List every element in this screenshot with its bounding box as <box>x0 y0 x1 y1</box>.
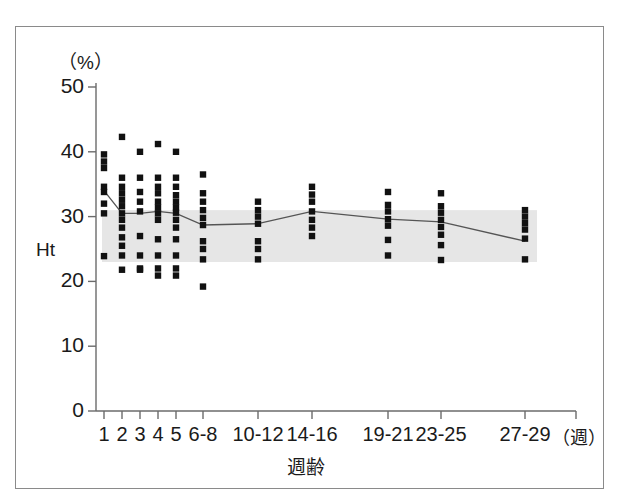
scatter-point <box>173 236 179 242</box>
scatter-point <box>438 203 444 209</box>
scatter-point <box>119 134 125 140</box>
scatter-point <box>255 221 261 227</box>
scatter-point <box>309 198 315 204</box>
scatter-point <box>309 224 315 230</box>
scatter-point <box>200 190 206 196</box>
scatter-point <box>119 234 125 240</box>
y-tick-label: 0 <box>30 398 84 422</box>
scatter-point <box>173 210 179 216</box>
scatter-point <box>200 198 206 204</box>
scatter-point <box>173 198 179 204</box>
scatter-point <box>385 222 391 228</box>
reference-band <box>102 210 537 262</box>
scatter-point <box>101 151 107 157</box>
x-tick-label: 23-25 <box>396 423 486 446</box>
scatter-point <box>385 237 391 243</box>
scatter-point <box>255 246 261 252</box>
scatter-point <box>155 198 161 204</box>
scatter-point <box>137 252 143 258</box>
x-tick-label: 27-29 <box>480 423 570 446</box>
scatter-point <box>200 207 206 213</box>
scatter-point <box>309 184 315 190</box>
scatter-point <box>522 207 528 213</box>
scatter-point <box>155 265 161 271</box>
y-axis-name-label: Ht <box>36 239 55 261</box>
scatter-point <box>173 184 179 190</box>
scatter-point <box>155 141 161 147</box>
scatter-point <box>255 207 261 213</box>
scatter-point <box>119 184 125 190</box>
scatter-point <box>119 203 125 209</box>
scatter-point <box>173 224 179 230</box>
y-tick-label: 20 <box>30 268 84 292</box>
scatter-point <box>155 210 161 216</box>
scatter-point <box>173 272 179 278</box>
scatter-point <box>119 210 125 216</box>
scatter-point <box>385 216 391 222</box>
scatter-point <box>119 243 125 249</box>
scatter-point <box>200 215 206 221</box>
scatter-point <box>137 198 143 204</box>
scatter-point <box>155 190 161 196</box>
scatter-point <box>119 197 125 203</box>
scatter-point <box>522 213 528 219</box>
scatter-point <box>119 252 125 258</box>
scatter-point <box>155 252 161 258</box>
scatter-point <box>173 192 179 198</box>
scatter-point <box>309 217 315 223</box>
scatter-point <box>255 238 261 244</box>
y-tick-label: 50 <box>30 74 84 98</box>
scatter-point <box>438 232 444 238</box>
y-axis-unit-label: （%） <box>58 47 113 74</box>
scatter-point <box>137 233 143 239</box>
scatter-point <box>522 220 528 226</box>
scatter-point <box>255 213 261 219</box>
scatter-point <box>137 175 143 181</box>
scatter-point <box>200 283 206 289</box>
scatter-point <box>101 210 107 216</box>
scatter-point <box>101 253 107 259</box>
scatter-point <box>155 175 161 181</box>
scatter-point <box>137 267 143 273</box>
scatter-point <box>101 200 107 206</box>
scatter-point <box>173 149 179 155</box>
scatter-point <box>119 267 125 273</box>
scatter-point <box>200 238 206 244</box>
scatter-point <box>200 222 206 228</box>
scatter-point <box>173 265 179 271</box>
scatter-point <box>438 257 444 263</box>
scatter-point <box>137 149 143 155</box>
scatter-point <box>385 252 391 258</box>
scatter-point <box>200 256 206 262</box>
scatter-point <box>438 210 444 216</box>
scatter-point <box>309 208 315 214</box>
scatter-point <box>155 217 161 223</box>
scatter-point <box>155 272 161 278</box>
scatter-point <box>101 158 107 164</box>
scatter-point <box>155 184 161 190</box>
scatter-point <box>119 175 125 181</box>
y-tick-label: 30 <box>30 204 84 228</box>
scatter-point <box>385 189 391 195</box>
scatter-point <box>438 242 444 248</box>
y-tick-label: 10 <box>30 333 84 357</box>
scatter-point <box>385 202 391 208</box>
scatter-point <box>255 256 261 262</box>
scatter-point <box>385 208 391 214</box>
scatter-point <box>155 236 161 242</box>
scatter-point <box>522 235 528 241</box>
scatter-point <box>200 171 206 177</box>
scatter-point <box>438 190 444 196</box>
scatter-point <box>200 246 206 252</box>
scatter-point <box>155 204 161 210</box>
x-axis-title: 週齢 <box>287 452 325 479</box>
scatter-point <box>137 189 143 195</box>
scatter-point <box>438 217 444 223</box>
scatter-point <box>255 198 261 204</box>
scatter-point <box>101 189 107 195</box>
scatter-point <box>101 165 107 171</box>
scatter-point <box>173 252 179 258</box>
y-tick-label: 40 <box>30 139 84 163</box>
figure-container: （%） Ht 週齢 （週） 01020304050 123456-810-121… <box>0 0 618 501</box>
scatter-point <box>309 191 315 197</box>
